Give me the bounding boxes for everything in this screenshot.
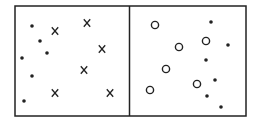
dot-marker (209, 20, 213, 24)
dot-marker (22, 99, 26, 103)
right-panel (146, 20, 229, 109)
cross-marker (84, 19, 90, 26)
circle-marker (162, 65, 169, 72)
circle-marker (175, 43, 182, 50)
circle-marker (151, 21, 158, 28)
dot-marker (30, 74, 34, 78)
cross-marker (52, 27, 58, 34)
dot-marker (226, 43, 230, 47)
cross-marker (99, 45, 105, 52)
cross-marker (52, 89, 58, 96)
dot-marker (45, 51, 49, 55)
dot-marker (30, 24, 34, 28)
left-panel (20, 19, 113, 103)
dot-marker (219, 105, 223, 109)
cross-marker (81, 66, 87, 73)
circle-marker (146, 86, 153, 93)
dot-marker (204, 58, 208, 62)
two-panel-scatter-diagram (0, 0, 256, 123)
dot-marker (38, 39, 42, 43)
circle-marker (202, 37, 209, 44)
cross-marker (107, 89, 113, 96)
dot-marker (205, 94, 209, 98)
circle-marker (193, 80, 200, 87)
dot-marker (213, 78, 217, 82)
dot-marker (20, 56, 24, 60)
